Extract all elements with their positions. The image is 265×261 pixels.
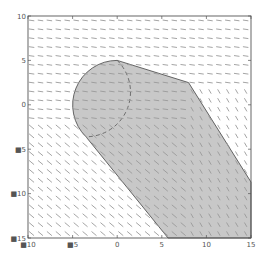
vector-arrow — [180, 20, 185, 21]
vector-arrow — [38, 29, 43, 30]
vector-arrow — [38, 20, 43, 21]
vector-arrow — [234, 73, 239, 74]
vector-arrow — [73, 29, 78, 30]
vector-arrow — [65, 205, 70, 209]
vector-arrow — [29, 223, 34, 227]
vector-arrow — [56, 47, 61, 48]
shaded-region — [73, 60, 251, 238]
vector-arrow — [145, 64, 150, 65]
vector-arrow — [74, 134, 79, 138]
vector-arrow — [154, 29, 159, 30]
vector-arrow — [189, 20, 194, 21]
vector-arrow — [65, 160, 70, 164]
vector-arrow — [91, 56, 96, 57]
vector-arrow — [218, 116, 221, 120]
vector-arrow — [73, 38, 78, 39]
vector-arrow — [100, 160, 105, 164]
vector-arrow — [82, 64, 87, 65]
vector-arrow — [47, 125, 52, 129]
vector-arrow — [91, 20, 96, 21]
vector-arrow — [92, 196, 97, 200]
vector-arrow — [65, 82, 70, 83]
vector-arrow — [83, 160, 88, 164]
x-tick-label: 5 — [160, 241, 164, 249]
vector-arrow — [189, 47, 194, 48]
vector-arrow — [38, 169, 43, 173]
vector-arrow — [38, 152, 43, 156]
vector-arrow — [29, 143, 34, 147]
vector-arrow — [154, 38, 159, 39]
vector-arrow — [172, 73, 177, 74]
vector-arrow — [29, 29, 34, 30]
y-tick-label: 10 — [17, 13, 26, 21]
vector-arrow — [154, 56, 159, 57]
vector-arrow — [118, 20, 123, 21]
vector-arrow — [172, 47, 177, 48]
vector-arrow — [38, 187, 43, 191]
vector-arrow — [198, 38, 203, 39]
vector-arrow — [189, 64, 194, 65]
vector-arrow — [73, 47, 78, 48]
vector-arrow — [38, 91, 43, 92]
vector-arrow — [47, 29, 52, 30]
vector-arrow — [225, 47, 230, 48]
vector-arrow — [65, 47, 70, 48]
vector-arrow — [225, 20, 230, 21]
vector-arrow — [47, 64, 52, 65]
vector-arrow — [136, 38, 141, 39]
vector-arrow — [136, 223, 141, 227]
vector-arrow — [227, 98, 230, 102]
vector-arrow — [244, 151, 247, 155]
vector-arrow — [172, 29, 177, 30]
vector-arrow — [235, 98, 238, 102]
vector-arrow — [235, 89, 238, 93]
vector-arrow — [216, 38, 221, 39]
vector-arrow — [74, 160, 79, 164]
vector-arrow — [56, 187, 61, 191]
vector-arrow — [163, 47, 168, 48]
vector-arrow — [65, 231, 70, 235]
vector-arrow — [83, 187, 88, 191]
vector-arrow — [92, 223, 97, 227]
vector-arrow — [163, 56, 168, 57]
vector-arrow — [47, 205, 52, 209]
vector-arrow — [74, 231, 79, 235]
vector-arrow — [154, 64, 159, 65]
vector-arrow — [56, 64, 61, 65]
vector-arrow — [56, 20, 61, 21]
vector-arrow — [172, 38, 177, 39]
vector-arrow — [189, 38, 194, 39]
vector-arrow — [92, 160, 97, 164]
vector-arrow — [109, 231, 114, 235]
vector-arrow — [145, 20, 150, 21]
vector-arrow — [234, 64, 239, 65]
vector-arrow — [145, 56, 150, 57]
vector-arrow — [29, 152, 34, 156]
vector-arrow — [216, 29, 221, 30]
vector-arrow — [127, 20, 132, 21]
vector-arrow — [47, 214, 52, 218]
vector-arrow — [207, 29, 212, 30]
vector-arrow — [56, 29, 61, 30]
vector-arrow — [109, 29, 114, 30]
vector-arrow — [92, 231, 97, 235]
vector-arrow — [100, 20, 105, 21]
vector-arrow — [29, 64, 34, 65]
vector-arrow — [74, 223, 79, 227]
vector-arrow — [65, 187, 70, 191]
vector-arrow — [47, 38, 52, 39]
vector-arrow — [56, 100, 61, 101]
vector-arrow — [163, 38, 168, 39]
vector-arrow — [234, 29, 239, 30]
vector-arrow — [82, 20, 87, 21]
vector-arrow — [74, 214, 79, 218]
vector-arrow — [154, 20, 159, 21]
vector-arrow — [227, 116, 230, 120]
vector-arrow — [127, 214, 132, 218]
vector-arrow — [118, 38, 123, 39]
vector-arrow — [47, 169, 52, 173]
vector-arrow — [154, 231, 159, 235]
vector-arrow — [163, 20, 168, 21]
vector-arrow — [244, 125, 247, 129]
vector-arrow — [47, 118, 52, 119]
